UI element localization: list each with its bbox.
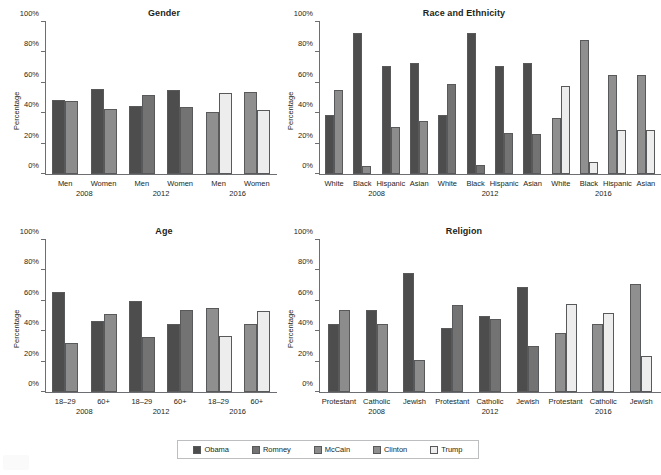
bar-mccain-jewish-2008[interactable] [414,360,425,392]
bar-clinton-jewish-2016[interactable] [630,284,641,392]
legend-item-mccain[interactable]: McCain [314,445,350,454]
x-axis-year-labels: 200820122016 [46,407,276,416]
bar-trump-white-2016[interactable] [561,86,570,174]
bar-obama-white-2012[interactable] [438,115,447,174]
x-axis-label-jewish: Jewish [622,392,660,406]
bar-group-2012 [433,240,546,392]
bar-obama-protestant-2008[interactable] [328,324,339,392]
bar-trump-protestant-2016[interactable] [566,304,577,392]
bar-clinton-white-2016[interactable] [552,118,561,174]
bar-obama-asian-2008[interactable] [410,63,419,174]
bar-romney-60-2012[interactable] [180,310,193,392]
bar-romney-black-2012[interactable] [476,165,485,174]
y-axis-tick-label: 20% [24,130,39,139]
bar-obama-catholic-2012[interactable] [479,316,490,392]
bar-cluster-60 [238,240,276,392]
x-axis-label-catholic: Catholic [584,392,622,406]
bar-groups [46,22,276,174]
bar-obama-protestant-2012[interactable] [441,328,452,392]
bar-mccain-white-2008[interactable] [334,90,343,174]
x-axis-label-black: Black [575,174,603,188]
bar-obama-catholic-2008[interactable] [366,310,377,392]
x-axis-group-2012: 18–2960+ [123,392,200,406]
bar-romney-hispanic-2012[interactable] [504,133,513,174]
x-axis-category-labels: ProtestantCatholicJewishProtestantCathol… [320,392,660,406]
x-axis-label-catholic: Catholic [471,392,509,406]
bar-trump-18-29-2016[interactable] [219,336,232,392]
bar-mccain-hispanic-2008[interactable] [391,127,400,174]
bar-trump-60-2016[interactable] [257,311,270,392]
bar-obama-asian-2012[interactable] [523,63,532,174]
bar-trump-catholic-2016[interactable] [603,313,614,392]
bar-mccain-60-2008[interactable] [104,314,117,392]
bar-cluster-protestant [320,240,358,392]
bar-clinton-asian-2016[interactable] [637,75,646,174]
bar-mccain-catholic-2008[interactable] [377,324,388,392]
bar-romney-catholic-2012[interactable] [490,319,501,392]
bar-mccain-black-2008[interactable] [362,166,371,174]
bar-obama-60-2012[interactable] [167,324,180,392]
x-axis-year-2012: 2012 [433,189,546,198]
bar-romney-white-2012[interactable] [447,84,456,174]
y-axis-tick-label: 80% [298,39,313,48]
bar-obama-jewish-2012[interactable] [517,287,528,392]
x-axis-label-protestant: Protestant [320,392,358,406]
x-axis-label-jewish: Jewish [509,392,547,406]
bar-romney-asian-2012[interactable] [532,134,541,174]
legend-item-romney[interactable]: Romney [252,445,291,454]
bar-clinton-protestant-2016[interactable] [555,333,566,392]
plot-area-race-ethnicity: 0%20%40%60%80%100%WhiteBlackHispanicAsia… [320,22,660,174]
bar-cluster-hispanic [490,22,518,174]
bar-trump-jewish-2016[interactable] [641,356,652,392]
bar-obama-white-2008[interactable] [325,115,334,174]
legend-item-clinton[interactable]: Clinton [373,445,407,454]
bar-clinton-black-2016[interactable] [580,40,589,174]
bar-mccain-asian-2008[interactable] [419,121,428,174]
bar-obama-women-2012[interactable] [167,90,180,174]
bar-obama-black-2008[interactable] [353,33,362,174]
bar-clinton-women-2016[interactable] [244,92,257,174]
bar-clinton-catholic-2016[interactable] [592,324,603,392]
bar-obama-women-2008[interactable] [91,89,104,174]
bar-trump-women-2016[interactable] [257,110,270,174]
bar-obama-hispanic-2012[interactable] [495,66,504,174]
bar-obama-jewish-2008[interactable] [403,273,414,392]
bar-clinton-18-29-2016[interactable] [206,308,219,392]
bar-mccain-18-29-2008[interactable] [65,343,78,392]
bar-clinton-men-2016[interactable] [206,112,219,174]
y-axis-tick-label: 40% [298,318,313,327]
bar-obama-hispanic-2008[interactable] [382,66,391,174]
legend-item-obama[interactable]: Obama [193,445,229,454]
bar-obama-18-29-2008[interactable] [52,292,65,392]
bar-trump-men-2016[interactable] [219,93,232,174]
bar-romney-men-2012[interactable] [142,95,155,174]
x-axis-year-2016: 2016 [547,407,660,416]
bar-obama-men-2008[interactable] [52,100,65,174]
x-axis-label-black: Black [462,174,490,188]
bar-romney-jewish-2012[interactable] [528,346,539,392]
bar-mccain-women-2008[interactable] [104,109,117,174]
bar-obama-18-29-2012[interactable] [129,301,142,392]
legend-item-trump[interactable]: Trump [430,445,462,454]
y-axis-tick-label: 0% [302,161,313,170]
bar-romney-18-29-2012[interactable] [142,337,155,392]
bar-romney-women-2012[interactable] [180,107,193,174]
x-axis-group-2008: 18–2960+ [46,392,123,406]
bar-cluster-jewish [396,240,434,392]
bar-obama-black-2012[interactable] [467,33,476,174]
bar-trump-asian-2016[interactable] [646,130,655,174]
x-axis-group-2016: 18–2960+ [199,392,276,406]
bar-mccain-protestant-2008[interactable] [339,310,350,392]
bar-group-2012 [123,240,200,392]
bar-trump-hispanic-2016[interactable] [617,130,626,174]
bar-trump-black-2016[interactable] [589,162,598,174]
bar-obama-men-2012[interactable] [129,106,142,174]
bar-mccain-men-2008[interactable] [65,101,78,174]
bar-clinton-hispanic-2016[interactable] [608,75,617,174]
bar-clinton-60-2016[interactable] [244,324,257,392]
bar-romney-protestant-2012[interactable] [452,305,463,392]
x-axis-group-2012: ProtestantCatholicJewish [433,392,546,406]
bar-obama-60-2008[interactable] [91,321,104,392]
x-axis-label-60: 60+ [161,392,199,406]
x-axis-group-2016: ProtestantCatholicJewish [547,392,660,406]
